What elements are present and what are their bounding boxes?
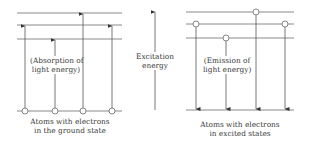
electron-icon	[22, 108, 28, 114]
excited-state-caption: Atoms with electrons in excited states	[197, 120, 283, 138]
electron-icon	[282, 21, 288, 27]
electron-icon	[52, 108, 58, 114]
emission-label: (Emission of light energy)	[203, 56, 251, 74]
absorption-label: (Absorption of light energy)	[30, 56, 82, 74]
electron-icon	[253, 9, 259, 15]
electron-icon	[193, 21, 199, 27]
electron-icon	[109, 108, 115, 114]
electron-icon	[223, 35, 229, 41]
electron-icon	[80, 108, 86, 114]
excitation-energy-label: Excitation energy	[133, 52, 177, 70]
ground-state-caption: Atoms with electrons in the ground state	[27, 117, 113, 135]
